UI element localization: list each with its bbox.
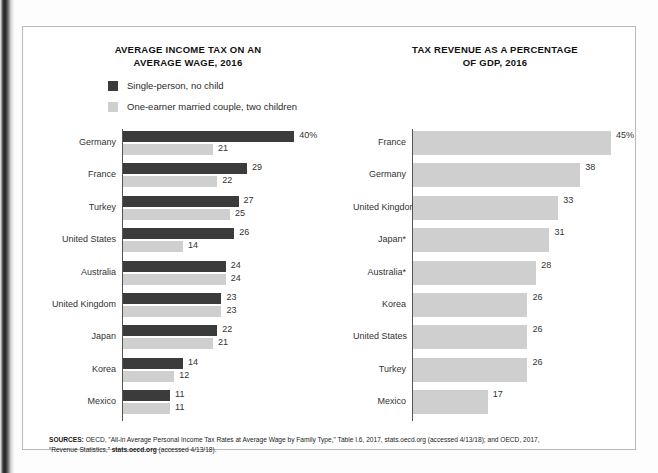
bar-value-label: 27 bbox=[244, 195, 254, 205]
chart-row: Germany38 bbox=[353, 163, 637, 187]
bar-value-label: 22 bbox=[222, 175, 232, 185]
chart-row: Japan2221 bbox=[23, 325, 353, 349]
chart-row: Korea26 bbox=[353, 293, 637, 317]
bar-Single-person, no child bbox=[123, 163, 247, 174]
category-label: Mexico bbox=[353, 396, 413, 406]
category-label: United Kingdom bbox=[23, 299, 123, 309]
bar-value-label: 24 bbox=[231, 273, 241, 283]
bar-value-label: 12 bbox=[179, 370, 189, 380]
bar-value-label: 45% bbox=[616, 130, 634, 140]
bar-Tax revenue as a percentage of GDP bbox=[413, 163, 580, 187]
chart-title-tax-revenue: TAX REVENUE AS A PERCENTAGE OF GDP, 2016 bbox=[353, 44, 637, 69]
bar-Single-person, no child bbox=[123, 131, 294, 142]
bar-value-label: 23 bbox=[226, 305, 236, 315]
category-label: United Kingdom bbox=[353, 202, 413, 212]
plot-area-average-income-tax: Germany40%21France2922Turkey2725United S… bbox=[23, 127, 353, 423]
category-label: United States bbox=[23, 234, 123, 244]
chart-panel-average-income-tax: AVERAGE INCOME TAX ON AN AVERAGE WAGE, 2… bbox=[23, 27, 353, 451]
category-label: France bbox=[353, 137, 413, 147]
sources-label: SOURCES: bbox=[49, 436, 84, 443]
chart-title-line-2: AVERAGE WAGE, 2016 bbox=[23, 57, 353, 70]
category-label: Turkey bbox=[353, 364, 413, 374]
legend-item-single-person: Single-person, no child bbox=[108, 77, 297, 94]
bar-Single-person, no child bbox=[123, 228, 234, 239]
bar-value-label: 11 bbox=[175, 402, 184, 412]
bar-Tax revenue as a percentage of GDP bbox=[413, 261, 536, 285]
legend-item-married-couple: One-earner married couple, two children bbox=[108, 98, 297, 115]
category-label: Japan* bbox=[353, 234, 413, 244]
chart-row: Mexico17 bbox=[353, 390, 637, 414]
bar-value-label: 14 bbox=[188, 357, 198, 367]
bar-One-earner married couple, two children bbox=[123, 241, 183, 252]
chart-row: Mexico1111 bbox=[23, 390, 353, 414]
bar-value-label: 26 bbox=[532, 324, 542, 334]
bar-Tax revenue as a percentage of GDP bbox=[413, 131, 611, 155]
bar-One-earner married couple, two children bbox=[123, 176, 217, 187]
category-label: Mexico bbox=[23, 396, 123, 406]
bar-value-label: 33 bbox=[563, 195, 573, 205]
bar-Single-person, no child bbox=[123, 390, 170, 401]
bar-One-earner married couple, two children bbox=[123, 403, 170, 414]
category-label: Germany bbox=[23, 137, 123, 147]
bar-value-label: 11 bbox=[175, 389, 184, 399]
legend-swatch-light bbox=[108, 102, 118, 112]
sources-line-1: SOURCES: OECD, "All-in Average Personal … bbox=[49, 435, 629, 445]
chart-row: United Kingdom2323 bbox=[23, 293, 353, 317]
bar-Tax revenue as a percentage of GDP bbox=[413, 293, 527, 317]
chart-legend: Single-person, no child One-earner marri… bbox=[108, 77, 297, 119]
bar-value-label: 26 bbox=[239, 227, 249, 237]
chart-title-average-income-tax: AVERAGE INCOME TAX ON AN AVERAGE WAGE, 2… bbox=[23, 44, 353, 69]
chart-row: France2922 bbox=[23, 163, 353, 187]
chart-row: Japan*31 bbox=[353, 228, 637, 252]
category-label: Korea bbox=[23, 364, 123, 374]
category-label: United States bbox=[353, 331, 413, 341]
legend-label-married-couple: One-earner married couple, two children bbox=[127, 101, 297, 112]
bar-Tax revenue as a percentage of GDP bbox=[413, 358, 527, 382]
chart-title-line-1: TAX REVENUE AS A PERCENTAGE bbox=[353, 44, 637, 57]
bar-value-label: 31 bbox=[554, 227, 564, 237]
bar-Single-person, no child bbox=[123, 358, 183, 369]
bar-Single-person, no child bbox=[123, 325, 217, 336]
category-label: France bbox=[23, 169, 123, 179]
bar-One-earner married couple, two children bbox=[123, 209, 230, 220]
category-label: Australia* bbox=[353, 267, 413, 277]
bar-value-label: 21 bbox=[218, 143, 228, 153]
bar-Single-person, no child bbox=[123, 261, 226, 272]
chart-row: Turkey2725 bbox=[23, 196, 353, 220]
chart-row: France45% bbox=[353, 131, 637, 155]
chart-row: Korea1412 bbox=[23, 358, 353, 382]
chart-row: United States26 bbox=[353, 325, 637, 349]
page-edge-shadow bbox=[0, 0, 14, 473]
bar-value-label: 21 bbox=[218, 337, 228, 347]
bar-value-label: 24 bbox=[231, 260, 241, 270]
sources-url: stats.oecd.org bbox=[112, 446, 157, 453]
bar-One-earner married couple, two children bbox=[123, 144, 213, 155]
bar-Tax revenue as a percentage of GDP bbox=[413, 390, 488, 414]
chart-row: Turkey26 bbox=[353, 358, 637, 382]
category-label: Korea bbox=[353, 299, 413, 309]
sources-line-2: “Revenue Statistics,” stats.oecd.org (ac… bbox=[49, 445, 629, 455]
chart-row: United States2614 bbox=[23, 228, 353, 252]
bar-One-earner married couple, two children bbox=[123, 338, 213, 349]
bar-Single-person, no child bbox=[123, 196, 239, 207]
bar-value-label: 26 bbox=[532, 357, 542, 367]
chart-row: Australia2424 bbox=[23, 261, 353, 285]
chart-row: United Kingdom33 bbox=[353, 196, 637, 220]
chart-title-line-1: AVERAGE INCOME TAX ON AN bbox=[23, 44, 353, 57]
bar-One-earner married couple, two children bbox=[123, 306, 221, 317]
bar-value-label: 29 bbox=[252, 162, 262, 172]
legend-swatch-dark bbox=[108, 81, 118, 91]
chart-panel-tax-revenue: TAX REVENUE AS A PERCENTAGE OF GDP, 2016… bbox=[353, 27, 637, 451]
figure-frame: AVERAGE INCOME TAX ON AN AVERAGE WAGE, 2… bbox=[22, 26, 636, 450]
bar-value-label: 38 bbox=[585, 162, 595, 172]
bar-Tax revenue as a percentage of GDP bbox=[413, 228, 549, 252]
sources-text-2b: (accessed 4/13/18). bbox=[157, 446, 217, 453]
bar-value-label: 28 bbox=[541, 260, 551, 270]
bar-value-label: 26 bbox=[532, 292, 542, 302]
bar-value-label: 40% bbox=[299, 130, 317, 140]
bar-value-label: 17 bbox=[493, 389, 503, 399]
bar-Single-person, no child bbox=[123, 293, 221, 304]
sources-text-2a: “Revenue Statistics,” bbox=[49, 446, 112, 453]
bar-value-label: 23 bbox=[226, 292, 236, 302]
category-label: Japan bbox=[23, 331, 123, 341]
